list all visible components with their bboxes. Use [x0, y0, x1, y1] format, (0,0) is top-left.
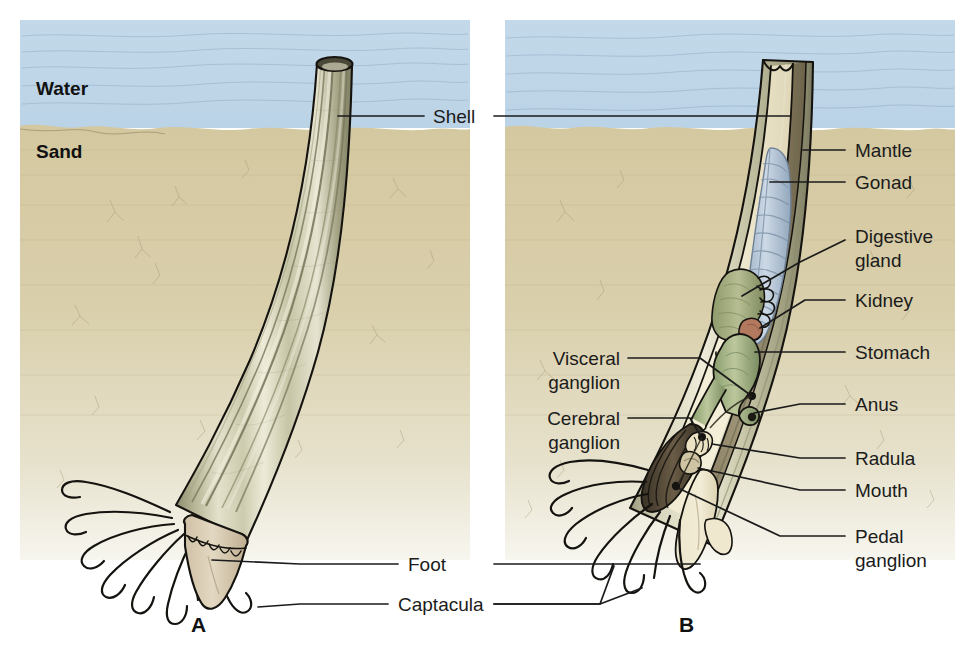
anus-b [748, 413, 756, 421]
leader-captacula-right-2 [494, 566, 614, 604]
kidney-label: Kidney [855, 290, 914, 311]
scaphopod-anatomy-diagram: Water Sand Shell Mantle Gonad Digestive … [0, 0, 965, 658]
mouth-label: Mouth [855, 480, 908, 501]
radula-label: Radula [855, 448, 916, 469]
mantle-label: Mantle [855, 140, 912, 161]
foot-label: Foot [408, 554, 447, 575]
leader-captacula-left [258, 604, 388, 607]
pedal-ganglion-label-line2: ganglion [855, 550, 927, 571]
digestive-gland-label-line2: gland [855, 250, 902, 271]
visceral-ganglion-label-line1: Visceral [553, 348, 620, 369]
panel-b-water-layer [505, 20, 955, 128]
panel-a-water-layer [20, 20, 470, 128]
stomach-label: Stomach [855, 342, 930, 363]
anus-label: Anus [855, 394, 898, 415]
sand-label: Sand [36, 141, 82, 162]
panel-letter-b: B [679, 613, 694, 636]
pedal-ganglion-label-line1: Pedal [855, 526, 904, 547]
figure-canvas: Water Sand Shell Mantle Gonad Digestive … [0, 0, 965, 658]
leader-captacula-right [494, 588, 642, 604]
panel-letter-a: A [191, 613, 206, 636]
digestive-gland-label-line1: Digestive [855, 226, 933, 247]
water-label: Water [36, 78, 89, 99]
cerebral-ganglion-label-line1: Cerebral [547, 408, 620, 429]
shell-label: Shell [433, 106, 475, 127]
captacula-label: Captacula [398, 594, 484, 615]
shell-apex-inner-a [322, 63, 348, 71]
visceral-ganglion-label-line2: ganglion [548, 372, 620, 393]
gonad-label: Gonad [855, 172, 912, 193]
cerebral-ganglion-label-line2: ganglion [548, 432, 620, 453]
